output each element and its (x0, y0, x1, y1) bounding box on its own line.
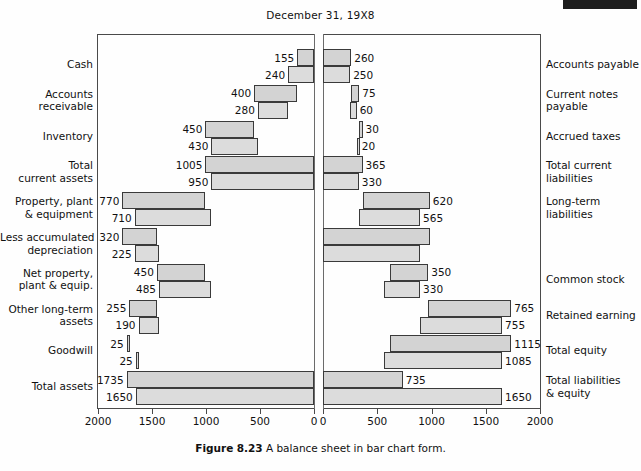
category-label-line2: & equity (546, 387, 641, 400)
bar-assets-prior-9 (136, 388, 314, 405)
bar-assets-current-4 (122, 192, 205, 209)
category-label-line1: Accrued taxes (546, 130, 641, 143)
category-label-line1: Inventory (0, 130, 93, 143)
category-label-line2: payable (546, 100, 641, 113)
bar-liab-prior-8 (384, 352, 502, 369)
category-label-left-0: Cash (0, 58, 93, 71)
axis-tick-right-500 (377, 409, 378, 414)
axis-tick-right-1000 (432, 409, 433, 414)
category-label-line1: Property, plant (0, 195, 93, 208)
category-label-right-9: Total liabilities& equity (546, 374, 641, 399)
category-label-line1: Accounts payable (546, 58, 641, 71)
category-label-line2: assets (0, 315, 93, 328)
bar-assets-prior-7 (139, 317, 160, 334)
axis-label-left-500: 500 (238, 415, 282, 427)
bar-liab-prior-2 (357, 138, 360, 155)
zero-axis-right (323, 34, 324, 409)
bar-liab-current-5 (323, 228, 430, 245)
bar-assets-current-1 (254, 85, 297, 102)
bar-liab-current-6 (390, 264, 428, 281)
bar-value-assets-prior-9: 1650 (106, 391, 133, 403)
axis-tick-right-0 (323, 409, 324, 414)
bar-assets-current-0 (297, 49, 314, 66)
category-label-line1: Total current (546, 159, 641, 172)
bar-value-assets-prior-7: 190 (115, 319, 135, 331)
bar-liab-prior-3 (323, 173, 359, 190)
bar-liab-prior-1 (350, 102, 357, 119)
axis-tick-left-1500 (152, 409, 153, 414)
category-label-left-4: Property, plant& equipment (0, 195, 93, 220)
category-label-line1: Total equity (546, 344, 641, 357)
bar-value-liab-current-4: 620 (433, 195, 453, 207)
bar-value-liab-current-1: 75 (362, 87, 375, 99)
category-label-left-6: Net property,plant & equip. (0, 267, 93, 292)
axis-tick-right-1500 (486, 409, 487, 414)
bar-value-assets-prior-2: 430 (188, 140, 208, 152)
category-label-line1: Common stock (546, 273, 641, 286)
bar-value-assets-prior-3: 950 (188, 176, 208, 188)
category-label-left-8: Goodwill (0, 344, 93, 357)
axis-tick-left-500 (260, 409, 261, 414)
category-label-line2: current assets (0, 172, 93, 185)
bar-value-assets-current-9: 1735 (97, 374, 124, 386)
bar-value-assets-prior-1: 280 (235, 104, 255, 116)
axis-label-left-1000: 1000 (184, 415, 228, 427)
bar-liab-current-9 (323, 371, 403, 388)
category-label-line2: depreciation (0, 244, 93, 257)
axis-label-right-1000: 1000 (410, 415, 454, 427)
category-label-line1: Accounts (0, 88, 93, 101)
bar-value-liab-current-6: 350 (431, 266, 451, 278)
bar-liab-current-4 (363, 192, 430, 209)
category-label-line1: Less accumulated (0, 231, 93, 244)
bar-value-liab-prior-8: 1085 (505, 355, 532, 367)
bar-value-assets-current-7: 255 (106, 302, 126, 314)
category-label-line1: Total (0, 159, 93, 172)
category-label-right-6: Common stock (546, 273, 641, 286)
category-label-line1: Long-term (546, 195, 641, 208)
axis-label-left-2000: 2000 (76, 415, 120, 427)
bar-value-assets-current-3: 1005 (176, 159, 203, 171)
bar-value-liab-prior-3: 330 (362, 176, 382, 188)
category-label-line1: Goodwill (0, 344, 93, 357)
bar-assets-current-7 (129, 300, 157, 317)
category-label-right-4: Long-termliabilities (546, 195, 641, 220)
bar-assets-prior-0 (288, 66, 314, 83)
bar-assets-prior-4 (135, 209, 212, 226)
category-label-line2: liabilities (546, 208, 641, 221)
category-label-right-3: Total currentliabilities (546, 159, 641, 184)
caption-text: A balance sheet in bar chart form. (266, 442, 446, 454)
bar-assets-current-3 (205, 156, 314, 173)
bar-liab-current-1 (351, 85, 359, 102)
bar-value-liab-current-2: 30 (366, 123, 379, 135)
bar-liab-current-2 (359, 121, 362, 138)
category-label-line1: Cash (0, 58, 93, 71)
category-label-right-7: Retained earning (546, 309, 641, 322)
bar-liab-current-0 (323, 49, 351, 66)
axis-label-right-500: 500 (355, 415, 399, 427)
bar-value-assets-current-2: 450 (182, 123, 202, 135)
bar-value-liab-prior-7: 755 (505, 319, 525, 331)
category-label-line1: Other long-term (0, 303, 93, 316)
bar-liab-current-7 (428, 300, 511, 317)
bar-value-assets-current-6: 450 (134, 266, 154, 278)
caption-prefix: Figure (195, 442, 233, 454)
axis-label-right-0: 0 (301, 415, 345, 427)
bar-liab-current-8 (390, 335, 511, 352)
bar-value-assets-prior-8: 25 (119, 355, 132, 367)
bar-liab-prior-9 (323, 388, 502, 405)
category-label-line1: Total liabilities (546, 374, 641, 387)
category-label-right-0: Accounts payable (546, 58, 641, 71)
bar-value-assets-current-8: 25 (110, 338, 123, 350)
bar-value-liab-prior-9: 1650 (505, 391, 532, 403)
category-label-left-5: Less accumulateddepreciation (0, 231, 93, 256)
bar-value-liab-prior-4: 565 (423, 212, 443, 224)
bar-value-assets-prior-0: 240 (265, 69, 285, 81)
zero-axis-left (314, 34, 315, 409)
bar-liab-prior-7 (420, 317, 502, 334)
bar-value-liab-prior-6: 330 (423, 283, 443, 295)
bar-value-liab-prior-1: 60 (360, 104, 373, 116)
category-label-line2: plant & equip. (0, 279, 93, 292)
axis-tick-left-2000 (98, 409, 99, 414)
bar-liab-prior-5 (323, 245, 420, 262)
category-label-left-9: Total assets (0, 380, 93, 393)
